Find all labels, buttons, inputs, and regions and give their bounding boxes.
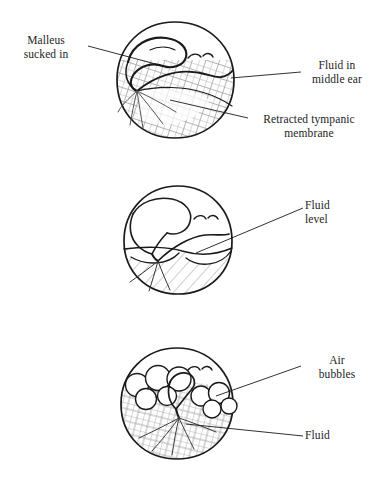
leader-fluid-level xyxy=(196,208,303,253)
air-bubble xyxy=(158,387,177,406)
panel-middle-drum xyxy=(124,186,232,294)
light-reflex-top xyxy=(188,53,213,58)
air-bubble xyxy=(221,398,237,414)
label-air-bubbles: Air bubbles xyxy=(303,354,371,381)
label-fluid-in-middle-ear: Fluid in middle ear xyxy=(303,59,371,86)
air-bubble xyxy=(136,389,157,410)
air-bubble xyxy=(203,400,221,418)
label-retracted-tympanic-membrane: Retracted tympanic membrane xyxy=(247,113,371,140)
malleus-detail-top xyxy=(150,47,175,50)
leader-fluid-middle-ear xyxy=(231,72,301,78)
label-fluid-level: Fluid level xyxy=(305,199,371,226)
light-reflex-middle xyxy=(194,215,218,219)
panel-top-shading xyxy=(117,22,234,138)
panel-top-drum xyxy=(117,22,234,138)
label-malleus-sucked-in: Malleus sucked in xyxy=(4,34,88,61)
panel-bottom-drum xyxy=(121,348,237,459)
malleus-head-middle xyxy=(133,198,191,234)
label-fluid: Fluid xyxy=(305,429,371,443)
